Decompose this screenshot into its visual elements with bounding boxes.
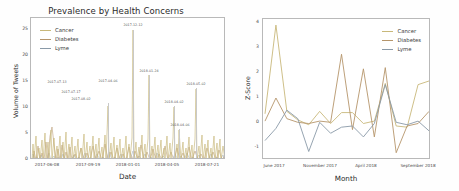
leader-line-2017-04-06	[108, 103, 109, 159]
legend-swatch-diabetes	[40, 39, 51, 40]
right-legend-item-cancer: Cancer	[382, 27, 421, 36]
legend-label-diabetes: Diabetes	[55, 35, 79, 44]
right-plot-area: Cancer Diabetes Lyme	[262, 18, 430, 159]
right-legend-label-diabetes: Diabetes	[397, 36, 421, 45]
right-y-tick-1: 1	[249, 94, 259, 99]
right-x-tick-1: June 2017	[263, 163, 284, 168]
right-legend: Cancer Diabetes Lyme	[382, 27, 421, 54]
right-x-tick-4: September 2018	[400, 163, 435, 168]
left-y-tick-10: 10	[16, 104, 28, 109]
leader-line-2018-04-06	[179, 129, 180, 159]
left-y-tick-15: 15	[16, 78, 28, 83]
left-x-tick-1: 2017-06-08	[35, 162, 59, 167]
right-legend-swatch-diabetes	[382, 40, 393, 41]
left-y-tick-5: 5	[16, 130, 28, 135]
right-legend-swatch-lyme	[382, 49, 393, 50]
annotation-2018-05-02: 2018-05-02	[186, 82, 205, 86]
legend-label-lyme: Lyme	[55, 44, 69, 53]
left-y-tick-25: 25	[16, 26, 28, 31]
legend-item-lyme: Lyme	[40, 44, 79, 53]
left-x-tick-3: 2018-01-01	[116, 162, 140, 167]
left-x-tick-2: 2017-09-19	[76, 162, 100, 167]
right-legend-label-cancer: Cancer	[397, 27, 416, 36]
left-chart-panel: Prevalence by Health Concerns Volume of …	[0, 0, 232, 191]
annotation-2017-07-13: 2017-07-13	[47, 80, 66, 84]
left-x-tick-4: 2018-04-05	[155, 162, 179, 167]
leader-line-2018-04-02	[174, 106, 175, 159]
right-legend-item-lyme: Lyme	[382, 45, 421, 54]
leader-line-2017-12-12	[133, 30, 134, 159]
annotation-2017-12-12: 2017-12-12	[123, 23, 142, 27]
left-y-tick-0: 0	[16, 156, 28, 161]
legend-label-cancer: Cancer	[55, 26, 74, 35]
right-y-tick-3: 3	[249, 44, 259, 49]
annotation-2018-04-06: 2018-04-06	[170, 123, 189, 127]
leader-line-2018-01-24	[149, 75, 150, 159]
right-y-tick-0: 0	[249, 119, 259, 124]
figure-canvas: Prevalence by Health Concerns Volume of …	[0, 0, 459, 191]
left-plot-area: Cancer Diabetes Lyme	[30, 17, 225, 159]
left-x-tick-5: 2018-07-21	[195, 162, 219, 167]
right-y-tick-neg1: -1	[249, 144, 259, 149]
annotation-2017-07-17: 2017-07-17	[61, 90, 80, 94]
left-y-axis-label: Volume of Tweets	[12, 64, 19, 118]
right-x-tick-3: April 2018	[355, 163, 377, 168]
legend-item-cancer: Cancer	[40, 26, 79, 35]
left-chart-title: Prevalence by Health Concerns	[0, 6, 232, 16]
right-y-tick-4: 4	[249, 19, 259, 24]
right-x-axis-label: Month	[262, 174, 430, 183]
legend-swatch-lyme	[40, 48, 51, 49]
leader-line-2018-05-02	[196, 88, 197, 159]
right-y-tick-2: 2	[249, 69, 259, 74]
legend-swatch-cancer	[40, 30, 51, 31]
annotation-2017-04-06: 2017-04-06	[98, 79, 117, 83]
annotation-2018-04-02: 2018-04-02	[164, 100, 183, 104]
annotation-2018-01-24: 2018-01-24	[139, 69, 158, 73]
left-y-tick-20: 20	[16, 52, 28, 57]
line-diabetes	[265, 54, 429, 152]
annotation-2017-08-02: 2017-08-02	[71, 97, 90, 101]
right-x-tick-2: November 2017	[303, 163, 337, 168]
legend-item-diabetes: Diabetes	[40, 35, 79, 44]
right-legend-item-diabetes: Diabetes	[382, 36, 421, 45]
right-chart-panel: Z-Score -1 0 1 2 3 4 Cancer Diabetes Lym…	[232, 0, 459, 191]
right-legend-swatch-cancer	[382, 31, 393, 32]
right-legend-label-lyme: Lyme	[397, 45, 411, 54]
left-legend: Cancer Diabetes Lyme	[40, 26, 79, 53]
left-x-axis-label: Date	[30, 172, 225, 181]
